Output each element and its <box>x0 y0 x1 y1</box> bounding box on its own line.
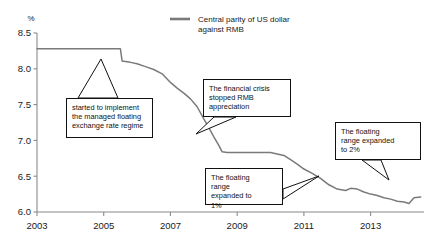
annotation-text-line: range expanded <box>341 136 415 145</box>
annotation-text-line: 1% <box>211 201 277 210</box>
annotation-callout-managed-float: started to implementthe managed floating… <box>66 98 153 138</box>
annotation-text-line: The financial crisis <box>209 84 285 93</box>
annotation-text-line: The floating <box>211 173 277 182</box>
annotation-pointer-managed-float <box>78 59 118 98</box>
annotation-callout-financial-crisis: The financial crisisstopped RMBappreciat… <box>203 79 291 117</box>
annotation-callout-float-range-2pct: The floatingrange expandedto 2% <box>335 122 421 160</box>
chart-legend: Central parity of US dollaragainst RMB <box>170 15 290 34</box>
y-axis-unit-label: % <box>27 14 34 23</box>
annotation-callout-float-range-1pct: The floatingrangeexpanded to1% <box>205 168 283 205</box>
y-axis-tick-label: 7.5 <box>18 99 31 110</box>
y-axis-tick-label: 8.5 <box>18 27 31 38</box>
annotation-text-line: appreciation <box>209 102 285 111</box>
y-axis-tick-label: 6.5 <box>18 171 31 182</box>
annotation-pointer-financial-crisis <box>196 117 236 134</box>
annotation-pointer-float-range-2pct <box>362 160 389 180</box>
annotation-text-line: The floating <box>341 127 415 136</box>
y-axis-tick-label: 7.0 <box>18 135 31 146</box>
x-axis-tick-label: 2013 <box>360 220 381 231</box>
annotation-text-line: to 2% <box>341 145 415 154</box>
legend-label: against RMB <box>198 25 244 34</box>
annotation-text-line: started to implement <box>72 103 147 112</box>
legend-label: Central parity of US dollar <box>198 15 290 24</box>
x-axis-tick-label: 2003 <box>26 220 47 231</box>
x-axis-tick-label: 2005 <box>93 220 114 231</box>
annotation-text-line: stopped RMB <box>209 93 285 102</box>
y-axis-tick-label: 6.0 <box>18 206 31 217</box>
x-axis-tick-label: 2007 <box>160 220 181 231</box>
annotation-text-line: the managed floating <box>72 112 147 121</box>
x-axis-tick-label: 2009 <box>227 220 248 231</box>
annotation-text-line: exchange rate regime <box>72 121 147 130</box>
annotation-pointer-float-range-1pct <box>283 176 319 199</box>
chart-container: %6.06.57.07.58.08.5200320052007200920112… <box>0 0 430 246</box>
x-axis-tick-label: 2011 <box>294 220 314 231</box>
annotation-text-line: expanded to <box>211 191 277 200</box>
annotation-text-line: range <box>211 182 277 191</box>
y-axis-tick-label: 8.0 <box>18 63 31 74</box>
